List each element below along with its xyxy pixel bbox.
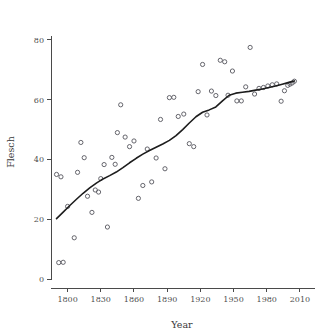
data-point [59, 175, 63, 179]
data-point [136, 196, 140, 200]
data-point [61, 260, 65, 264]
data-point [230, 69, 234, 73]
y-axis-ticks: 020406080 [34, 36, 51, 284]
data-point [132, 139, 136, 143]
data-point [123, 135, 127, 139]
data-point [248, 45, 252, 49]
x-tick-label: 1830 [91, 295, 111, 304]
data-point [200, 62, 204, 66]
data-point [105, 225, 109, 229]
data-point [192, 145, 196, 149]
data-point [110, 155, 114, 159]
x-axis-title: Year [170, 319, 193, 330]
data-point [182, 112, 186, 116]
data-point [244, 85, 248, 89]
x-tick-label: 1860 [124, 295, 144, 304]
y-tick-label: 80 [34, 36, 44, 45]
data-point [57, 261, 61, 265]
data-point [218, 58, 222, 62]
x-tick-label: 1950 [223, 295, 243, 304]
y-tick-label: 40 [34, 155, 44, 164]
data-point [163, 167, 167, 171]
x-tick-label: 1890 [157, 295, 177, 304]
y-tick-label: 0 [39, 275, 44, 284]
data-point [90, 210, 94, 214]
x-axis-ticks: 18001830186018901920195019802010 [57, 288, 310, 304]
data-point [154, 156, 158, 160]
data-point [72, 236, 76, 240]
data-point [113, 162, 117, 166]
data-point [115, 131, 119, 135]
data-point [75, 170, 79, 174]
y-axis-title: Flesch [5, 136, 16, 168]
x-tick-label: 2010 [290, 295, 310, 304]
data-point [235, 99, 239, 103]
y-tick-label: 20 [34, 215, 44, 224]
data-point [176, 114, 180, 118]
data-points [54, 45, 296, 264]
data-point [54, 172, 58, 176]
data-point [252, 92, 256, 96]
data-point [158, 117, 162, 121]
data-point [282, 89, 286, 93]
axes [51, 36, 315, 288]
data-point [102, 162, 106, 166]
data-point [167, 96, 171, 100]
data-point [85, 194, 89, 198]
data-point [223, 60, 227, 64]
data-point [187, 142, 191, 146]
data-point [239, 99, 243, 103]
x-tick-label: 1920 [190, 295, 210, 304]
data-point [127, 145, 131, 149]
data-point [196, 90, 200, 94]
data-point [205, 113, 209, 117]
x-tick-label: 1800 [57, 295, 77, 304]
flesch-year-scatter-figure: 020406080 180018301860189019201950198020… [0, 0, 325, 334]
data-point [209, 89, 213, 93]
y-tick-label: 60 [34, 96, 44, 105]
data-point [150, 180, 154, 184]
data-point [279, 99, 283, 103]
data-point [82, 156, 86, 160]
data-point [96, 190, 100, 194]
x-tick-label: 1980 [257, 295, 277, 304]
data-point [172, 95, 176, 99]
data-point [119, 103, 123, 107]
data-point [79, 140, 83, 144]
chart-canvas: 020406080 180018301860189019201950198020… [0, 0, 325, 334]
data-point [214, 93, 218, 97]
loess-smooth-curve [57, 81, 295, 219]
data-point [141, 183, 145, 187]
